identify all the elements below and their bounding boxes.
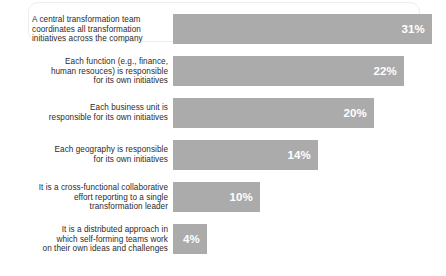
bar-category-label: A central transformation team coordinate…	[32, 15, 168, 44]
bar-track: 22%	[173, 56, 446, 86]
bar-value-label: 10%	[229, 191, 253, 203]
bar[interactable]: 22%	[173, 56, 404, 86]
bar[interactable]: 10%	[173, 182, 260, 212]
bar[interactable]: 31%	[173, 14, 432, 44]
bar-row: Each business unit is responsible for it…	[0, 98, 446, 128]
bar-row: It is a distributed approach in which se…	[0, 224, 446, 254]
bar-value-label: 20%	[343, 107, 367, 119]
bar-category-label: Each business unit is responsible for it…	[8, 103, 168, 122]
bar-row: Each function (e.g., finance, human reso…	[0, 56, 446, 86]
bar-category-label: It is a cross-functional collaborative e…	[8, 183, 168, 212]
bar-value-label: 31%	[401, 23, 425, 35]
bar-row: A central transformation team coordinate…	[0, 14, 446, 44]
bar[interactable]: 14%	[173, 140, 318, 170]
bar[interactable]: 20%	[173, 98, 374, 128]
bar-category-label: Each function (e.g., finance, human reso…	[8, 57, 168, 86]
bar-value-label: 4%	[183, 233, 200, 245]
bar-row: It is a cross-functional collaborative e…	[0, 182, 446, 212]
bar-category-label: It is a distributed approach in which se…	[8, 225, 168, 254]
bar-chart-card: A central transformation team coordinate…	[0, 0, 446, 276]
bar-value-label: 22%	[373, 65, 397, 77]
bar-track: 14%	[173, 140, 446, 170]
bar-rows-container: A central transformation team coordinate…	[0, 14, 446, 266]
bar-value-label: 14%	[287, 149, 311, 161]
bar-track: 31%	[173, 14, 446, 44]
bar-track: 20%	[173, 98, 446, 128]
bar-track: 4%	[173, 224, 446, 254]
bar-category-label: Each geography is responsible for its ow…	[8, 145, 168, 164]
bar-row: Each geography is responsible for its ow…	[0, 140, 446, 170]
bar[interactable]: 4%	[173, 224, 207, 254]
bar-track: 10%	[173, 182, 446, 212]
